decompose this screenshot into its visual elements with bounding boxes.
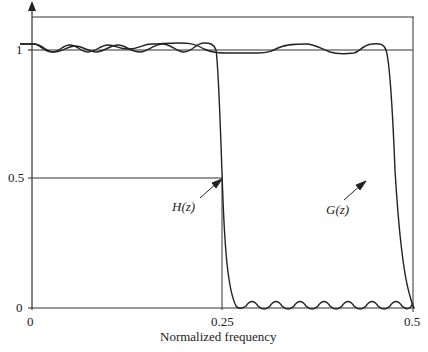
- x-axis-title: Normalized frequency: [160, 330, 277, 344]
- x-tick-label-0: 0: [27, 315, 34, 329]
- h-curve-label: H(z): [172, 200, 195, 214]
- y-tick-label-0.5: 0.5: [8, 171, 24, 185]
- y-tick-label-0: 0: [16, 301, 23, 315]
- y-tick-label-1: 1: [16, 43, 23, 57]
- series-g-curve: [20, 43, 414, 308]
- x-tick-label-0.5: 0.5: [404, 315, 420, 329]
- annotation-arrows: [200, 179, 366, 200]
- frequency-response-chart: [0, 0, 428, 352]
- x-tick-label-0.25: 0.25: [211, 315, 234, 329]
- y-axis-arrow-icon: [28, 1, 36, 11]
- series-h-curve: [20, 43, 413, 309]
- g-curve-label: G(z): [326, 203, 349, 217]
